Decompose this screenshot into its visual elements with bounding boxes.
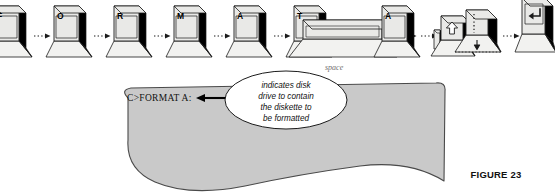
key-o-label: O bbox=[57, 11, 64, 21]
callout-line-3: the diskette to bbox=[261, 103, 312, 112]
key-o[interactable]: O bbox=[46, 6, 92, 57]
key-a-1[interactable]: A bbox=[226, 6, 272, 57]
command-prompt-text: C>FORMAT A: bbox=[127, 93, 192, 103]
key-m-label: M bbox=[177, 11, 184, 21]
figure-canvas: F O R M bbox=[0, 0, 555, 193]
keystroke-row: F O R M bbox=[0, 0, 555, 72]
annotation-callout: indicates disk drive to contain the disk… bbox=[225, 71, 347, 129]
key-m[interactable]: M bbox=[166, 6, 212, 57]
key-f-label: F bbox=[0, 11, 2, 21]
figure-23-keystroke-diagram: F O R M bbox=[0, 0, 555, 193]
key-a-2-label: A bbox=[385, 11, 391, 21]
key-r[interactable]: R bbox=[106, 6, 152, 57]
connector-m-to-a bbox=[214, 33, 231, 38]
key-enter[interactable] bbox=[515, 0, 555, 52]
connector-colon-to-enter bbox=[503, 33, 520, 38]
key-r-label: R bbox=[117, 11, 123, 21]
key-f[interactable]: F bbox=[0, 6, 32, 57]
key-a-1-label: A bbox=[237, 11, 243, 21]
callout-line-1: indicates disk bbox=[261, 81, 311, 90]
connector-r-to-m bbox=[154, 33, 171, 38]
figure-caption: FIGURE 23 bbox=[471, 169, 522, 180]
callout-line-2: drive to contain bbox=[258, 92, 314, 101]
spacebar-caption: space bbox=[325, 63, 344, 72]
connector-f-to-o bbox=[34, 33, 51, 38]
connector-a-to-t bbox=[274, 33, 291, 38]
key-t-label: T bbox=[297, 11, 303, 21]
callout-line-4: be formatted bbox=[263, 114, 309, 123]
connector-o-to-r bbox=[94, 33, 111, 38]
